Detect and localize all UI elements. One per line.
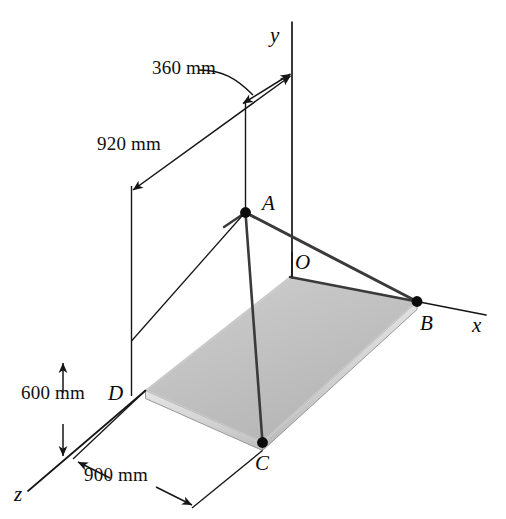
point-label-C: C [255, 451, 269, 476]
mechanics-figure: 360 mm 920 mm 600 mm 900 mm A B C D O x … [0, 0, 506, 519]
point-marker-A [240, 207, 251, 218]
point-label-A: A [262, 191, 275, 216]
ext-line-diagonal-upper [132, 212, 246, 341]
axis-label-y: y [270, 23, 279, 48]
figure-canvas [0, 0, 506, 519]
dimension-label-920: 920 mm [97, 133, 161, 155]
axis-label-z: z [14, 482, 22, 507]
dimension-900-arrow-right [156, 487, 192, 505]
point-marker-B [412, 296, 423, 307]
dimension-360-arrow [243, 74, 291, 104]
dimension-label-900: 900 mm [84, 464, 148, 486]
point-marker-C [257, 437, 268, 448]
point-label-O: O [295, 250, 310, 275]
dimension-label-600: 600 mm [21, 382, 85, 404]
point-label-B: B [420, 311, 433, 336]
ext-line-C-diagonal [192, 451, 263, 509]
point-label-D: D [108, 381, 123, 406]
dimension-label-360: 360 mm [152, 57, 216, 79]
plate-slab [146, 277, 418, 451]
axis-label-x: x [472, 313, 481, 338]
